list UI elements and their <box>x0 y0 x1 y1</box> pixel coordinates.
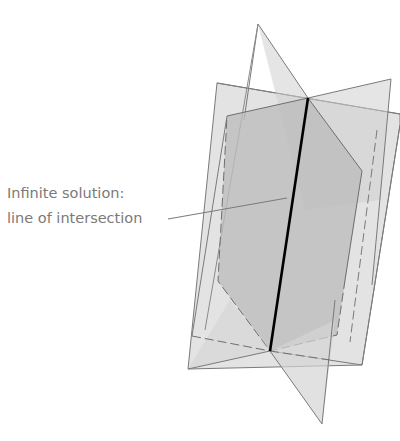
annotation-line2: line of intersection <box>7 211 142 226</box>
annotation-line1: Infinite solution: <box>7 186 124 201</box>
diagram-canvas: Infinite solution: line of intersection <box>0 0 400 441</box>
